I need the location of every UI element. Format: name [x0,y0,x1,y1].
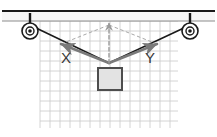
suspended-block [98,68,122,90]
vector-label-x: X [61,49,71,66]
vector-label-y: Y [145,49,155,66]
ceiling-beam [2,11,215,21]
pulley-hub [28,29,32,33]
diagram-canvas: X Y [0,0,217,137]
force-diagram-figure: X Y [0,0,217,137]
pulley-hub [188,29,192,33]
ceiling-fill [2,11,215,21]
